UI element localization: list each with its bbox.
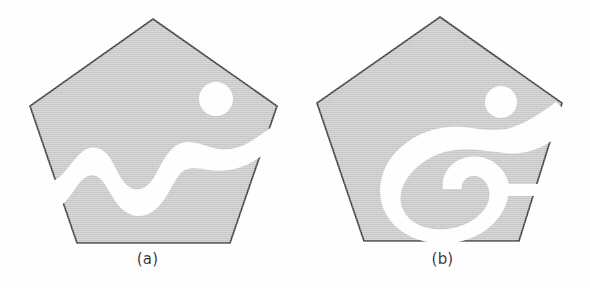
shape-b-svg bbox=[295, 0, 590, 250]
shape-a-body bbox=[30, 19, 277, 243]
shape-a-svg bbox=[0, 0, 295, 250]
panel-a-caption: (a) bbox=[0, 250, 295, 268]
panel-b-caption: (b) bbox=[295, 250, 590, 268]
figure-panel-a: (a) bbox=[0, 0, 295, 288]
shape-b-body bbox=[317, 17, 562, 241]
figure-sheet: (a) bbox=[0, 0, 590, 288]
figure-panel-b: (b) bbox=[295, 0, 590, 288]
